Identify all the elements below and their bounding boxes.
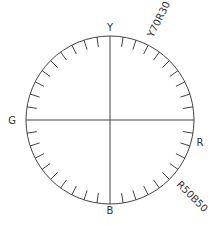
hue-tick [144, 186, 149, 195]
hue-tick [30, 143, 40, 146]
hue-tick [35, 82, 44, 87]
hue-tick [183, 132, 193, 134]
hue-tick [154, 180, 160, 188]
hue-tick [154, 52, 160, 60]
hue-tick [42, 71, 50, 77]
hue-tick [162, 61, 169, 68]
label-green: G [8, 115, 16, 126]
hue-tick [133, 190, 136, 200]
label-red: R [197, 137, 204, 148]
hue-tick [97, 37, 99, 47]
hue-tick [84, 40, 87, 50]
hue-tick [51, 61, 58, 68]
hue-tick [97, 193, 99, 203]
hue-tick [72, 186, 77, 195]
hue-annotation-r50b50: R50B50 [175, 179, 211, 215]
hue-tick [122, 193, 124, 203]
hue-tick [42, 164, 50, 170]
hue-tick [170, 71, 178, 77]
hue-tick [27, 107, 37, 109]
hue-tick [61, 52, 67, 60]
hue-tick [183, 107, 193, 109]
hue-tick [51, 172, 58, 179]
hue-tick [170, 164, 178, 170]
label-yellow: Y [106, 22, 114, 33]
hue-tick [122, 37, 124, 47]
hue-tick [176, 82, 185, 87]
hue-tick [180, 94, 190, 97]
hue-tick [30, 94, 40, 97]
hue-tick [84, 190, 87, 200]
label-blue: B [107, 205, 114, 216]
hue-tick [162, 172, 169, 179]
hue-annotation-y70r30: Y70R30 [145, 0, 173, 40]
hue-tick [133, 40, 136, 50]
hue-tick [144, 45, 149, 54]
hue-tick [176, 154, 185, 159]
hue-tick [35, 154, 44, 159]
hue-tick [61, 180, 67, 188]
hue-tick [27, 132, 37, 134]
hue-tick [72, 45, 77, 54]
hue-tick [180, 143, 190, 146]
ncs-color-circle-diagram: Y R B G Y70R30 R50B50 [0, 0, 215, 225]
